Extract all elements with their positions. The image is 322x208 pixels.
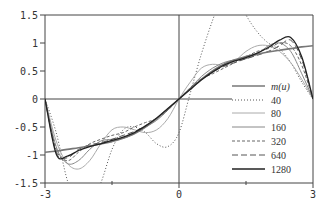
x-axis-ticks: -303 <box>39 181 316 200</box>
legend-label: 640 <box>271 150 286 161</box>
legend-label: 1280 <box>271 164 291 175</box>
y-tick-label: 1.5 <box>20 10 38 21</box>
line-chart: 1.510.50-0.5-1-1.5 -303 m(u)408016032064… <box>0 0 322 208</box>
legend-label: 320 <box>271 136 286 147</box>
x-tick-label: 3 <box>310 189 316 200</box>
y-tick-label: -0.5 <box>14 122 38 133</box>
legend: m(u)40801603206401280 <box>232 81 291 175</box>
y-tick-label: 0.5 <box>20 66 38 77</box>
x-tick-label: -3 <box>39 189 51 200</box>
y-tick-label: -1 <box>26 150 38 161</box>
legend-label: 40 <box>271 95 281 106</box>
y-axis-ticks: 1.510.50-0.5-1-1.5 <box>14 10 45 189</box>
legend-label: m(u) <box>271 81 291 93</box>
y-tick-label: 0 <box>32 94 38 105</box>
legend-label: 80 <box>271 108 281 119</box>
x-tick-label: 0 <box>176 189 182 200</box>
y-tick-label: -1.5 <box>14 178 38 189</box>
y-tick-label: 1 <box>32 38 38 49</box>
legend-label: 160 <box>271 122 286 133</box>
